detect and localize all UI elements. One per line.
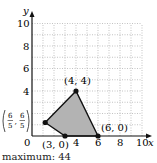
y-tick-labels: 46810 [17, 18, 30, 97]
point-label-6-0: (6, 0) [101, 122, 128, 133]
x-tick-8: 8 [117, 137, 123, 148]
y-tick-6: 6 [23, 63, 29, 74]
x-axis-label: x [148, 137, 154, 148]
frac2-num: 6 [20, 112, 25, 120]
vertex-point [62, 133, 67, 138]
frac1-num: 6 [8, 112, 13, 120]
y-tick-4: 4 [23, 86, 29, 97]
maximum-caption: maximum: 44 [2, 151, 71, 162]
x-tick-10: 10 [136, 137, 149, 148]
frac2-den: 5 [20, 122, 24, 130]
x-tick-4: 4 [73, 137, 79, 148]
vertex-point [73, 88, 78, 93]
svg-text:,: , [15, 117, 18, 126]
frac1-den: 5 [8, 122, 12, 130]
origin-label: 0 [24, 137, 30, 148]
vertex-point [95, 133, 100, 138]
point-label-4-4: (4, 4) [64, 75, 91, 86]
x-tick-6: 6 [95, 137, 101, 148]
y-axis-arrow-icon [30, 11, 35, 17]
y-tick-8: 8 [23, 41, 29, 52]
point-label-6-5-6-5: 6 5 , 6 5 [3, 110, 29, 132]
vertex-point [43, 120, 48, 125]
feasible-region-chart: x y 0 46810 46810 (4, 4) (6, 0) (3, 0) 6… [0, 0, 157, 150]
x-tick-labels: 46810 [73, 137, 149, 148]
y-tick-10: 10 [17, 18, 30, 29]
point-label-3-0: (3, 0) [42, 139, 69, 150]
y-axis-label: y [22, 5, 29, 16]
